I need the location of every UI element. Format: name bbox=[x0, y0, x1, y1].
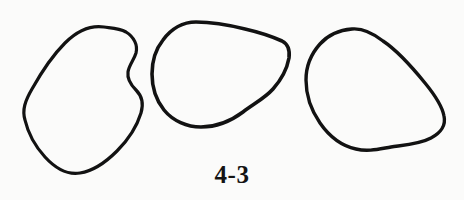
right-blob-outline bbox=[306, 29, 444, 150]
figure-page: 4-3 bbox=[0, 0, 464, 200]
figure-number-caption: 4-3 bbox=[0, 158, 464, 192]
left-blob-outline bbox=[24, 27, 143, 174]
middle-blob-outline bbox=[152, 22, 289, 127]
